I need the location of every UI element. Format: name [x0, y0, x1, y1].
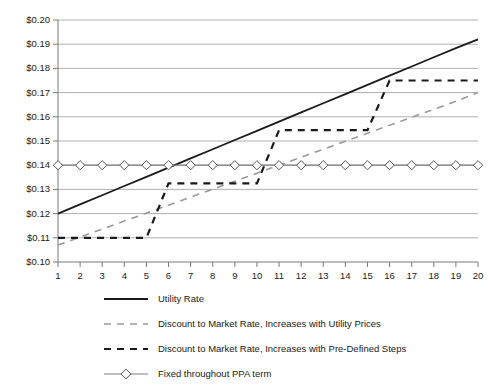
legend-swatch-dashed-gray-line — [104, 317, 148, 331]
y-tick-label: $0.18 — [4, 63, 50, 73]
x-tick-label: 9 — [223, 271, 247, 281]
diamond-marker — [120, 161, 129, 170]
x-tick-label: 17 — [400, 271, 424, 281]
x-tick-label: 15 — [355, 271, 379, 281]
x-tick-label: 18 — [422, 271, 446, 281]
diamond-icon — [121, 369, 131, 379]
y-tick-label: $0.20 — [4, 15, 50, 25]
x-tick-label: 3 — [90, 271, 114, 281]
y-tick-label: $0.15 — [4, 136, 50, 146]
x-tick-label: 2 — [68, 271, 92, 281]
diamond-marker — [274, 161, 283, 170]
diamond-marker — [473, 161, 482, 170]
gridlines-group — [58, 20, 478, 238]
data-series-group — [53, 39, 482, 245]
y-tick-label: $0.17 — [4, 88, 50, 98]
y-tick-label: $0.14 — [4, 160, 50, 170]
x-tick-label: 8 — [201, 271, 225, 281]
x-tick-label: 13 — [311, 271, 335, 281]
series-line-0 — [58, 39, 478, 213]
diamond-marker — [98, 161, 107, 170]
y-tick-marks — [53, 20, 58, 262]
series-line-1 — [58, 93, 478, 245]
y-tick-label: $0.19 — [4, 39, 50, 49]
x-tick-label: 11 — [267, 271, 291, 281]
x-tick-label: 1 — [46, 271, 70, 281]
legend-label-utility-rate: Utility Rate — [148, 293, 204, 304]
legend-label-discount-utility-prices: Discount to Market Rate, Increases with … — [148, 318, 381, 329]
legend-swatch-solid-black-line — [104, 292, 148, 306]
diamond-marker — [451, 161, 460, 170]
x-tick-label: 20 — [466, 271, 489, 281]
diamond-marker — [230, 161, 239, 170]
legend-label-fixed-ppa-term: Fixed throughout PPA term — [148, 368, 271, 379]
x-tick-marks — [58, 262, 478, 267]
legend-label-discount-predefined-steps: Discount to Market Rate, Increases with … — [148, 343, 406, 354]
series-line-2 — [58, 81, 478, 238]
y-tick-label: $0.16 — [4, 112, 50, 122]
diamond-marker — [53, 161, 62, 170]
x-tick-label: 12 — [289, 271, 313, 281]
x-tick-label: 7 — [179, 271, 203, 281]
legend-item-utility-rate: Utility Rate — [104, 286, 489, 311]
diamond-marker — [186, 161, 195, 170]
x-tick-label: 16 — [378, 271, 402, 281]
x-tick-label: 19 — [444, 271, 468, 281]
x-tick-label: 10 — [245, 271, 269, 281]
diamond-marker — [429, 161, 438, 170]
chart-container: $0.20$0.19$0.18$0.17$0.16$0.15$0.14$0.13… — [0, 0, 489, 386]
legend-swatch-dashed-black-line — [104, 342, 148, 356]
diamond-marker — [385, 161, 394, 170]
y-tick-label: $0.10 — [4, 257, 50, 267]
diamond-marker — [363, 161, 372, 170]
y-tick-label: $0.11 — [4, 233, 50, 243]
diamond-marker — [407, 161, 416, 170]
diamond-marker — [297, 161, 306, 170]
legend-swatch-diamond-marker-line — [104, 367, 148, 381]
diamond-marker — [319, 161, 328, 170]
legend-item-discount-predefined-steps: Discount to Market Rate, Increases with … — [104, 336, 489, 361]
x-tick-label: 6 — [157, 271, 181, 281]
y-tick-label: $0.13 — [4, 184, 50, 194]
diamond-marker — [341, 161, 350, 170]
legend-item-fixed-ppa-term: Fixed throughout PPA term — [104, 361, 489, 386]
x-tick-label: 4 — [112, 271, 136, 281]
y-tick-label: $0.12 — [4, 209, 50, 219]
x-tick-label: 5 — [134, 271, 158, 281]
diamond-marker — [76, 161, 85, 170]
diamond-marker — [142, 161, 151, 170]
diamond-marker — [252, 161, 261, 170]
chart-legend: Utility Rate Discount to Market Rate, In… — [104, 286, 489, 386]
diamond-marker — [208, 161, 217, 170]
legend-item-discount-utility-prices: Discount to Market Rate, Increases with … — [104, 311, 489, 336]
x-tick-label: 14 — [333, 271, 357, 281]
